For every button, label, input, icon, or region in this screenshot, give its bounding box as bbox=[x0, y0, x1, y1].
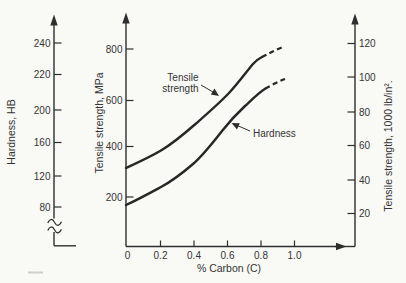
tensile-annotation-arrowhead-icon bbox=[211, 89, 219, 96]
chart-canvas: 240 220 200 160 120 80 Hardness, HB 800 … bbox=[0, 0, 406, 283]
mpa-axis-arrow-icon bbox=[122, 13, 129, 24]
mpa-tick-label: 400 bbox=[106, 141, 123, 152]
mpa-axis-title: Tensile strength, MPa bbox=[93, 72, 105, 173]
carbon-axis-title: % Carbon (C) bbox=[197, 262, 261, 274]
tensile-annotation-line1: Tensile bbox=[167, 72, 199, 83]
curves bbox=[126, 47, 285, 206]
carbon-tick-label: 0.4 bbox=[187, 250, 201, 261]
carbon-steel-properties-chart: 240 220 200 160 120 80 Hardness, HB 800 … bbox=[0, 0, 406, 283]
psi-tick-label: 20 bbox=[359, 208, 371, 219]
mpa-axis: 800 600 400 200 Tensile strength, MPa bbox=[93, 13, 134, 247]
psi-tick-label: 100 bbox=[359, 72, 376, 83]
hardness-curve-extrapolation bbox=[266, 79, 286, 89]
carbon-axis: 0 0.2 0.4 0.6 0.8 1.0 % Carbon (C) bbox=[125, 241, 347, 274]
carbon-tick-label: 0.8 bbox=[254, 250, 268, 261]
hardness-tick-label: 120 bbox=[34, 171, 51, 182]
tensile-strength-curve-extrapolation bbox=[262, 47, 285, 58]
hardness-axis: 240 220 200 160 120 80 Hardness, HB bbox=[5, 15, 77, 246]
hardness-axis-title: Hardness, HB bbox=[5, 99, 17, 164]
psi-tick-label: 40 bbox=[359, 175, 371, 186]
hardness-curve bbox=[126, 89, 266, 206]
psi-tick-label: 60 bbox=[359, 140, 371, 151]
carbon-tick-label: 0.6 bbox=[221, 250, 235, 261]
hardness-axis-arrow-icon bbox=[50, 15, 57, 26]
carbon-tick-label: 0 bbox=[125, 250, 131, 261]
psi-axis-title: Tensile strength, 1000 lb/in². bbox=[382, 80, 394, 211]
carbon-tick-label: 1.0 bbox=[288, 250, 302, 261]
mpa-tick-label: 600 bbox=[106, 95, 123, 106]
hardness-tick-label: 220 bbox=[34, 69, 51, 80]
mpa-tick-label: 800 bbox=[106, 44, 123, 55]
mpa-tick-label: 200 bbox=[106, 192, 123, 203]
hardness-tick-label: 80 bbox=[39, 202, 51, 213]
hardness-tick-label: 200 bbox=[34, 105, 51, 116]
hardness-tick-label: 240 bbox=[34, 38, 51, 49]
psi-tick-label: 120 bbox=[359, 38, 376, 49]
psi-axis-arrow-icon bbox=[351, 14, 358, 25]
carbon-tick-label: 0.2 bbox=[154, 250, 168, 261]
hardness-annotation: Hardness bbox=[253, 128, 296, 139]
psi-axis: 120 100 80 60 40 20 Tensile strength, 10… bbox=[335, 14, 394, 247]
hardness-tick-label: 160 bbox=[34, 137, 51, 148]
psi-tick-label: 80 bbox=[359, 107, 371, 118]
tensile-annotation-line2: strength bbox=[162, 83, 198, 94]
